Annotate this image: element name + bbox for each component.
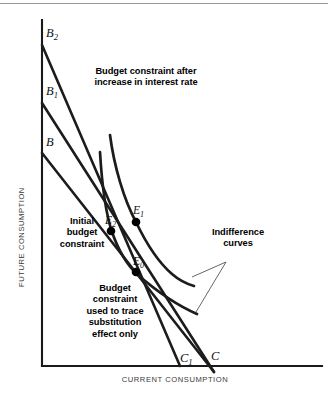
indifference-leader-lines (192, 262, 226, 312)
equilibrium-dot-E1 (132, 218, 141, 227)
intercept-label-C1: C1 (180, 351, 193, 367)
economics-diagram-figure: E2 E1 E0 B2 B1 B C1 C CURRENT CONSUMPTIO… (0, 0, 328, 403)
x-axis-title: CURRENT CONSUMPTION (122, 375, 229, 384)
equilibrium-dot-E0 (132, 268, 141, 277)
indifference-curve-upper (110, 135, 194, 286)
annotation-indifference-curves: Indifference curves (200, 227, 276, 250)
annotation-initial-budget-constraint: Initial budget constraint (44, 216, 120, 250)
leader-line-upper-curve (192, 262, 226, 277)
annotation-budget-after-rate-increase: Budget constraint after increase in inte… (66, 66, 226, 89)
intercept-label-B2: B2 (46, 26, 59, 42)
intercept-label-C: C (211, 349, 220, 363)
equilibrium-label-E0: E0 (132, 255, 144, 270)
y-axis-title: FUTURE CONSUMPTION (17, 187, 26, 287)
annotation-substitution-effect-constraint: Budget constraint used to trace substitu… (69, 283, 161, 340)
equilibrium-label-E1: E1 (132, 204, 144, 219)
diagram-canvas: E2 E1 E0 B2 B1 B C1 C CURRENT CONSUMPTIO… (0, 0, 328, 403)
leader-line-lower-curve (196, 262, 226, 312)
intercept-label-B: B (46, 135, 54, 149)
intercept-label-B1: B1 (46, 84, 58, 100)
